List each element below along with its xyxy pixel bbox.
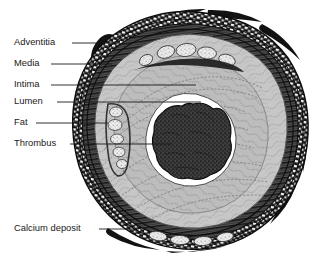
artery-cross-section-figure: Adventitia Media Intima Lumen Fat Thromb… — [0, 0, 329, 261]
label-media-text: Media — [14, 57, 40, 68]
vessel-cross-section — [73, 9, 309, 253]
label-calcium-deposit-text: Calcium deposit — [14, 222, 81, 233]
label-intima-text: Intima — [14, 78, 40, 89]
label-fat-text: Fat — [14, 116, 28, 127]
label-adventitia-text: Adventitia — [14, 36, 56, 47]
label-lumen-text: Lumen — [14, 95, 43, 106]
label-thrombus-text: Thrombus — [14, 137, 57, 148]
